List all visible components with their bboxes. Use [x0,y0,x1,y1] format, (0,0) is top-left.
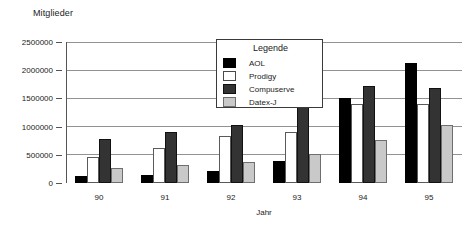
legend-swatch-icon [223,97,236,107]
bar [165,132,177,183]
y-tick-label: 1500000 [22,94,53,103]
legend-item: Compuserve [223,83,294,95]
bar [141,175,153,183]
bar-chart: Mitglieder 05000001000000150000020000002… [0,0,475,251]
bar [111,168,123,183]
x-tick-label: 90 [95,193,104,202]
bar [207,171,219,183]
y-tick-mark [56,42,62,43]
y-tick-label: 500000 [26,150,53,159]
x-tick-label: 91 [161,193,170,202]
bar [363,86,375,183]
bar [417,104,429,183]
y-axis: 05000001000000150000020000002500000 [0,0,66,251]
y-tick-label: 1000000 [22,122,53,131]
legend-item-label: AOL [249,59,265,68]
bar [351,104,363,183]
legend-item-label: Prodigy [249,72,276,81]
x-tick-label: 95 [425,193,434,202]
x-tick-label: 93 [293,193,302,202]
bar [273,161,285,183]
legend-item-label: Datex-J [249,98,277,107]
y-tick-mark [56,70,62,71]
x-tick-label: 92 [227,193,236,202]
y-tick-label: 0 [49,179,53,188]
legend-swatch-icon [223,58,236,68]
bar [339,98,351,183]
bar [231,125,243,183]
legend: Legende AOLProdigyCompuserveDatex-J [216,39,323,108]
bar [405,63,417,183]
legend-item-label: Compuserve [249,85,294,94]
x-axis-title: Jahr [256,208,272,217]
x-tick-label: 94 [359,193,368,202]
y-tick-label: 2500000 [22,38,53,47]
legend-swatch-icon [223,71,236,81]
bar [441,125,453,183]
bar [309,154,321,183]
bar [153,148,165,183]
legend-items: AOLProdigyCompuserveDatex-J [223,57,294,109]
legend-swatch-icon [223,84,236,94]
bar [375,140,387,183]
bar [87,157,99,183]
y-tick-label: 2000000 [22,66,53,75]
bar [285,132,297,183]
y-tick-mark [56,127,62,128]
legend-item: Prodigy [223,70,294,82]
bar [75,176,87,183]
bar [243,162,255,183]
bar [297,102,309,183]
legend-item: AOL [223,57,294,69]
bar [99,139,111,183]
bar [219,136,231,183]
bar [429,88,441,183]
y-tick-mark [56,98,62,99]
bar [177,165,189,183]
y-tick-mark [56,155,62,156]
legend-item: Datex-J [223,96,294,108]
legend-title: Legende [217,43,324,53]
y-tick-mark [56,183,62,184]
